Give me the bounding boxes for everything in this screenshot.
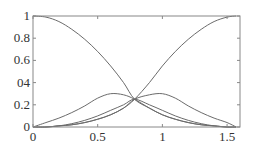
y-tick-label: 0 [24,119,31,134]
series-line-increasing [33,16,236,127]
series-line-decreasing [33,16,236,127]
plot-lines [33,16,236,127]
x-tick-label: 1.5 [219,129,235,144]
line-chart: 00.511.5 00.2040.60.81 [0,0,253,154]
plot-frame [33,16,240,127]
y-tick-label: 1 [24,8,31,23]
y-tick-label: 04 [17,75,31,90]
x-tick-label: 1 [159,129,166,144]
series-line-low-middle [33,99,236,127]
x-tick-label: 0 [30,129,37,144]
y-tick-label: 0.6 [14,52,31,67]
y-tick-label: 0.2 [14,97,30,112]
y-tick-label: 0.8 [14,30,30,45]
x-tick-label: 0.5 [90,129,106,144]
